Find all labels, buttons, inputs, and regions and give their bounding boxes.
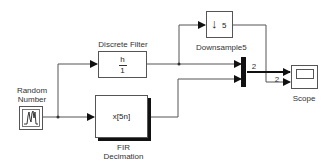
downsample-block[interactable]: ↓ 5 <box>206 11 233 38</box>
discrete-filter-label: Discrete Filter <box>93 40 153 49</box>
scope-label: Scope <box>287 94 321 103</box>
random-number-block[interactable] <box>19 106 43 130</box>
line-random-to-filter[interactable] <box>58 64 97 117</box>
down-arrow-icon: ↓ <box>211 16 218 31</box>
scope-screen-icon <box>296 69 314 79</box>
scope-input-width: 2 <box>273 75 281 84</box>
junction-dot <box>57 116 60 119</box>
line-downsample-to-scope[interactable] <box>232 25 290 82</box>
fir-content: x[5n] <box>96 112 147 121</box>
line-fir-to-mux[interactable] <box>148 79 241 117</box>
random-number-label: Random Number <box>12 86 52 104</box>
junction-dot <box>178 63 181 66</box>
filter-numerator: h <box>99 55 146 64</box>
signal-lines <box>0 0 333 166</box>
random-signal-icon <box>20 107 42 129</box>
downsample-factor: 5 <box>222 21 226 30</box>
fir-decimation-label: FIR Decimation <box>96 143 151 161</box>
random-number-label-line2: Number <box>12 95 52 104</box>
downsample-label: Downsample5 <box>196 43 244 52</box>
simulink-diagram: Random Number Discrete Filter h 1 x[5n] … <box>0 0 333 166</box>
scope-block[interactable] <box>291 65 318 89</box>
mux-output-width: 2 <box>250 62 258 71</box>
discrete-filter-block[interactable]: h 1 <box>98 51 147 78</box>
random-number-label-line1: Random <box>12 86 52 95</box>
mux-block[interactable] <box>241 57 246 87</box>
fir-decimation-block[interactable]: x[5n] <box>95 95 148 138</box>
fir-label-line2: Decimation <box>96 152 151 161</box>
fir-label-line1: FIR <box>96 143 151 152</box>
filter-denominator: 1 <box>99 66 146 75</box>
